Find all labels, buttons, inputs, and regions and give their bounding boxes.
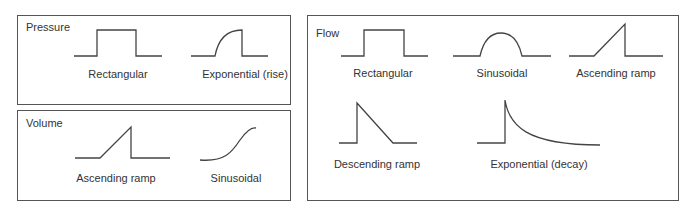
pressure-rectangular-label: Rectangular	[88, 68, 147, 80]
flow-sinusoidal-label: Sinusoidal	[477, 67, 528, 79]
pressure-exponential-rise-label: Exponential (rise)	[202, 68, 288, 80]
flow-ascending-ramp-label: Ascending ramp	[576, 67, 656, 79]
flow-exponential-decay-label: Exponential (decay)	[490, 158, 587, 170]
volume-sinusoidal-label: Sinusoidal	[211, 172, 262, 184]
pressure-panel-title: Pressure	[26, 21, 70, 33]
volume-panel-title: Volume	[26, 117, 63, 129]
flow-panel	[307, 15, 679, 201]
flow-rectangular-label: Rectangular	[353, 67, 412, 79]
flow-descending-ramp-label: Descending ramp	[334, 158, 420, 170]
flow-panel-title: Flow	[316, 27, 339, 39]
volume-ascending-ramp-label: Ascending ramp	[76, 172, 156, 184]
